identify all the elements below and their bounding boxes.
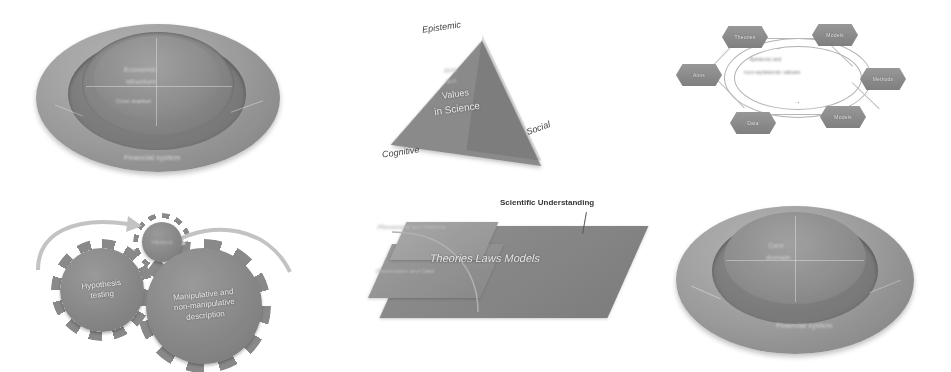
oval-core <box>94 36 220 120</box>
hex-node-models-top[interactable]: Models <box>812 24 858 46</box>
hex-node-methods[interactable]: Methods <box>860 68 906 90</box>
hex-node-models-bottom-label: Models <box>834 114 851 120</box>
figure-layered-plane-bottom-center: Phenomena and Patterns Observation and D… <box>352 198 642 343</box>
diagram-plate: Economic structure Core market Financial… <box>0 0 951 372</box>
callout-scientific-understanding: Scientific Understanding <box>500 198 594 207</box>
gear-hypothesis-testing[interactable]: Hypothesis testing <box>60 248 144 332</box>
hex-node-aims[interactable]: Aims <box>676 64 722 86</box>
triangle-vertex-bottom-left: Cognitive <box>381 144 420 159</box>
gear-hypothesis-testing-label: Hypothesis testing <box>77 277 126 303</box>
gear-small-label: Inference <box>148 239 177 246</box>
hex-node-data[interactable]: Data <box>730 112 776 134</box>
plane-label-lower-left: Observation and Data <box>375 268 435 274</box>
figure-hexagon-cycle-top-right: Theories Models Methods Models Data Aims… <box>672 16 922 141</box>
figure-concentric-oval-top-left: Economic structure Core market Financial… <box>30 14 290 179</box>
triangle-shading <box>466 35 557 160</box>
triangle-vertex-top: Epistemic <box>421 19 461 34</box>
hex-node-models-top-label: Models <box>826 32 843 38</box>
figure-gears-bottom-left: Inference Hypothesis testing Manipulativ… <box>22 200 312 360</box>
oval2-divider-h <box>726 260 864 261</box>
cycle-arrow-top-icon: ← <box>776 44 783 51</box>
figure-triangle-top-center: Epistemic Cognitive Social Aims and Valu… <box>368 18 578 173</box>
cycle-edge-5 <box>768 114 828 115</box>
gear-manipulative-description[interactable]: Manipulative and non-manipulative descri… <box>146 248 262 364</box>
hex-node-aims-label: Aims <box>693 72 705 78</box>
oval-divider-v <box>156 38 157 126</box>
figure-concentric-oval-bottom-right: Core domain Financial system <box>672 198 922 360</box>
cycle-center-line-1: Epistemic and <box>750 56 781 63</box>
cycle-arrow-bottom-icon: → <box>794 98 801 105</box>
hex-node-models-bottom[interactable]: Models <box>820 106 866 128</box>
hex-node-theories-label: Theories <box>734 34 755 40</box>
plane-label-upper-left: Phenomena and Patterns <box>377 224 446 230</box>
gear-manipulative-label: Manipulative and non-manipulative descri… <box>168 287 240 325</box>
hex-node-theories[interactable]: Theories <box>722 26 768 48</box>
triangle-center-line-2: and <box>445 76 456 85</box>
hex-node-methods-label: Methods <box>873 76 894 82</box>
plane-label-top-slab: Theories Laws Models <box>429 252 542 264</box>
hex-node-data-label: Data <box>747 120 758 126</box>
oval-divider-h <box>86 86 232 87</box>
cycle-center-line-2: non-epistemic values <box>744 68 800 77</box>
oval2-divider-v <box>795 216 796 302</box>
